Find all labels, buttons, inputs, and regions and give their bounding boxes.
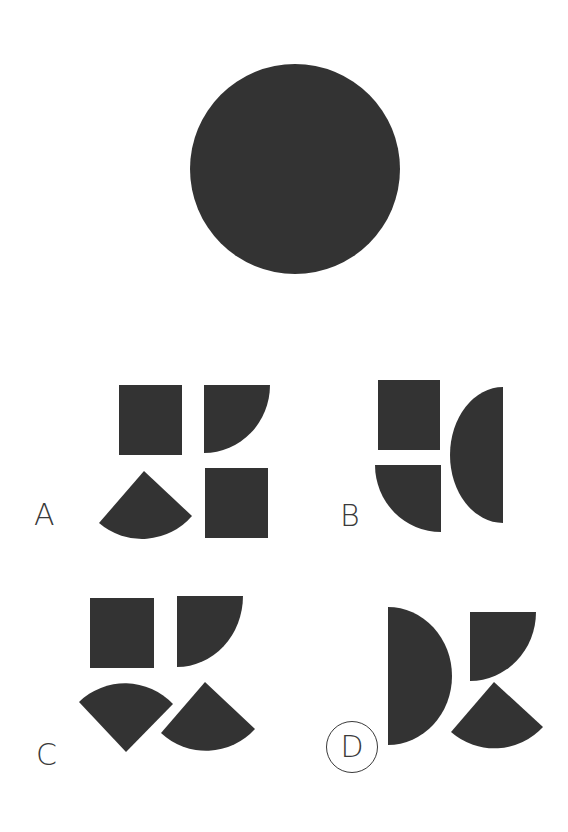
option-d-pieces[interactable] <box>388 607 543 748</box>
option-c-quarter-circle <box>177 596 243 667</box>
option-b-pieces[interactable] <box>375 380 503 532</box>
option-b-half-circle <box>450 387 503 523</box>
option-b-label[interactable]: B <box>340 501 360 531</box>
option-a-square-1 <box>119 385 182 455</box>
option-c-pieces[interactable] <box>79 596 255 752</box>
option-c-square <box>90 598 154 668</box>
option-a-square-2 <box>205 468 268 538</box>
option-d-label-selected[interactable]: D <box>326 721 378 773</box>
option-c-label[interactable]: C <box>36 740 57 770</box>
option-d-sector <box>451 682 543 748</box>
option-a-sector <box>99 471 192 539</box>
target-circle <box>190 64 400 274</box>
option-c-sector-2 <box>161 682 255 751</box>
option-b-square <box>378 380 440 450</box>
option-d-half-circle <box>388 607 452 745</box>
puzzle-figure <box>0 0 568 832</box>
option-c-sector-1 <box>79 683 173 752</box>
option-a-quarter-circle <box>204 385 270 453</box>
target-shape <box>190 64 400 274</box>
option-b-quarter-circle <box>375 465 441 532</box>
option-d-quarter-circle <box>470 612 536 681</box>
option-a-label[interactable]: A <box>34 500 55 530</box>
puzzle-canvas: A B C D <box>0 0 568 832</box>
option-a-pieces[interactable] <box>99 385 270 539</box>
